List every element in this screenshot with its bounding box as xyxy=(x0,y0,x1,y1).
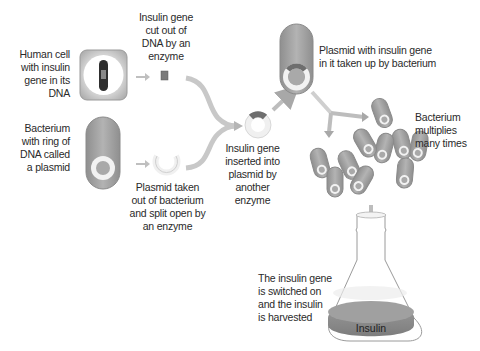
label-gene-inserted: Insulin gene inserted into plasmid by an… xyxy=(215,142,290,207)
bacterium-icon xyxy=(86,117,120,189)
arrow-icon xyxy=(136,73,150,81)
label-human-cell: Human cell with insulin gene in its DNA xyxy=(6,48,70,100)
insulin-gene-fragment-icon xyxy=(161,71,168,80)
label-gene-cut: Insulin gene cut out of DNA by an enzyme xyxy=(131,11,201,63)
recombinant-plasmid-icon xyxy=(245,112,271,138)
recombinant-bacterium-icon xyxy=(280,24,313,94)
arrow-icon xyxy=(136,160,150,168)
bacteria-colony-icon xyxy=(308,96,429,197)
label-switched-on: The insulin gene is switched on and the … xyxy=(258,272,348,324)
flask-content-label: Insulin xyxy=(345,322,397,334)
human-cell-icon xyxy=(80,50,127,100)
label-bacterium: Bacterium with ring of DNA called a plas… xyxy=(6,122,70,174)
open-plasmid-icon xyxy=(156,156,178,173)
label-plasmid-taken-up: Plasmid with insulin gene in it taken up… xyxy=(319,44,469,70)
arrow-icon xyxy=(273,93,291,110)
label-plasmid-taken: Plasmid taken out of bacterium and split… xyxy=(125,181,210,233)
label-multiplies: Bacterium multiplies many times xyxy=(415,111,479,150)
